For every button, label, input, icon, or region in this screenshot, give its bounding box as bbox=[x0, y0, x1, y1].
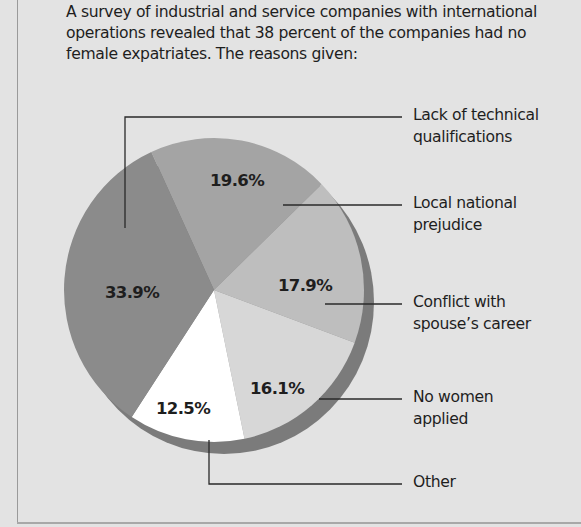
slice-value-label: 33.9% bbox=[105, 283, 160, 302]
slice-value-label: 17.9% bbox=[278, 276, 333, 295]
legend-line: Other bbox=[413, 473, 456, 491]
legend-line: Conflict with bbox=[413, 293, 506, 311]
legend-line: Local national bbox=[413, 194, 517, 212]
legend-line: prejudice bbox=[413, 216, 482, 234]
legend-item-local-national-prejudice: Local national prejudice bbox=[413, 192, 517, 236]
slice-value-label: 19.6% bbox=[210, 171, 265, 190]
legend-line: Lack of technical bbox=[413, 106, 539, 124]
pie-chart: 33.9%19.6%17.9%16.1%12.5% bbox=[0, 0, 581, 527]
legend-line: spouse’s career bbox=[413, 315, 531, 333]
legend-item-other: Other bbox=[413, 471, 456, 493]
legend-item-lack-of-technical-qualifications: Lack of technical qualifications bbox=[413, 104, 539, 148]
legend-item-no-women-applied: No women applied bbox=[413, 386, 493, 430]
legend-line: No women bbox=[413, 388, 493, 406]
legend-line: applied bbox=[413, 410, 468, 428]
legend-item-conflict-with-spouses-career: Conflict with spouse’s career bbox=[413, 291, 531, 335]
slice-value-label: 16.1% bbox=[250, 379, 305, 398]
legend-line: qualifications bbox=[413, 128, 512, 146]
slice-value-label: 12.5% bbox=[156, 399, 211, 418]
